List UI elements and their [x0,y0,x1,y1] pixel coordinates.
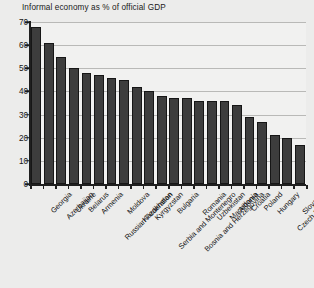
bar [295,145,305,184]
x-tick-mark [268,185,270,189]
x-tick-mark [293,185,295,189]
bar [182,98,192,184]
x-tick-mark [30,185,32,189]
y-tick-label-50: 50 [0,64,28,73]
y-tick-label-0: 0 [0,180,28,189]
y-tick-label-40: 40 [0,87,28,96]
x-tick-mark [143,185,145,189]
bar [194,101,204,184]
bar [94,75,104,184]
bar [245,117,255,184]
bar [107,78,117,184]
x-tick-mark [193,185,195,189]
x-tick-mark [168,185,170,189]
bar-chart-figure: Informal economy as % of official GDP 01… [0,0,314,288]
bar [31,27,41,184]
x-tick-mark [93,185,95,189]
bar [169,98,179,184]
y-tick-label-60: 60 [0,41,28,50]
x-tick-mark [105,185,107,189]
bar [257,122,267,184]
bar [132,87,142,184]
bar [220,101,230,184]
bar [144,91,154,184]
bar [69,68,79,184]
x-tick-mark [55,185,57,189]
x-tick-mark [68,185,70,189]
bar [282,138,292,184]
y-tick-label-10: 10 [0,156,28,165]
x-tick-mark [43,185,45,189]
x-tick-mark [306,185,308,189]
y-tick-label-20: 20 [0,133,28,142]
x-tick-mark [155,185,157,189]
bar [119,80,129,184]
x-tick-mark [218,185,220,189]
bar [270,135,280,184]
x-axis-labels: GeorgiaAzerbaijanUkraineBelarusArmeniaRu… [30,190,314,288]
y-tick-label-70: 70 [0,18,28,27]
bar [56,57,66,184]
bars-group [30,22,306,184]
y-tick-label-30: 30 [0,110,28,119]
x-tick-mark [181,185,183,189]
x-tick-mark [281,185,283,189]
x-tick-mark [243,185,245,189]
x-tick-mark [256,185,258,189]
x-tick-mark [206,185,208,189]
bar [82,73,92,184]
x-tick-mark [231,185,233,189]
chart-title: Informal economy as % of official GDP [22,3,166,12]
bar [157,96,167,184]
bar [44,43,54,184]
bar [232,105,242,184]
x-tick-mark [80,185,82,189]
x-tick-mark [130,185,132,189]
bar [207,101,217,184]
